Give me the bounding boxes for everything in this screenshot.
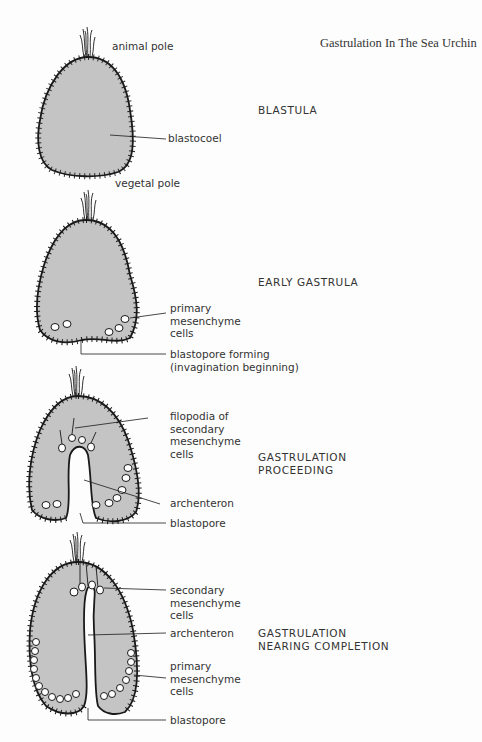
label-primary-mesenchyme-cells-2: primary mesenchyme cells [170,660,241,698]
label-primary-mesenchyme-cells: primary mesenchyme cells [170,302,241,340]
label-secondary-mesenchyme-cells: secondary mesenchyme cells [170,584,241,622]
stage-title-gastrulation-nearing-completion: GASTRULATION NEARING COMPLETION [258,627,389,653]
early-gastrula-embryo [37,190,166,354]
stage-title-early-gastrula: EARLY GASTRULA [258,276,358,289]
label-archenteron: archenteron [170,497,234,510]
label-blastopore-forming: blastopore forming (invagination beginni… [170,348,299,373]
label-blastopore-2: blastopore [170,714,226,727]
label-archenteron-2: archenteron [170,627,234,640]
label-vegetal-pole: vegetal pole [115,177,180,190]
label-blastocoel: blastocoel [168,132,222,145]
label-blastopore: blastopore [170,517,226,530]
label-filopodia: filopodia of secondary mesenchyme cells [170,410,241,460]
gastrulation-proceeding-embryo [29,366,166,523]
gastrulation-nearing-completion-embryo [30,532,166,720]
label-animal-pole: animal pole [112,40,173,53]
stage-title-gastrulation-proceeding: GASTRULATION PROCEEDING [258,451,347,477]
page-title: Gastrulation In The Sea Urchin [320,36,477,51]
stage-title-blastula: BLASTULA [258,104,317,117]
